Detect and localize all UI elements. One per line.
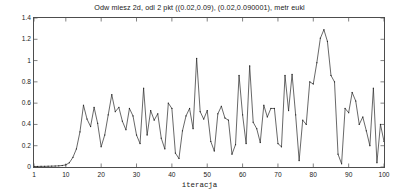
x-tick-label: 40 (157, 171, 187, 178)
y-tick-label: 1.4 (3, 14, 31, 21)
y-tick-label: 0 (3, 163, 31, 170)
y-axis-tick-labels: 00.20.40.60.811.21.4 (0, 17, 31, 168)
x-axis-label: iteracja (0, 181, 399, 189)
x-tick-label: 50 (192, 171, 222, 178)
x-tick-label: 20 (86, 171, 116, 178)
chart-title: Odw miesz 2d, odl 2 pkt ((0.02,0.09), (0… (0, 3, 399, 12)
x-tick-label: 30 (122, 171, 152, 178)
y-tick-label: 0.4 (3, 121, 31, 128)
y-tick-label: 1 (3, 57, 31, 64)
x-tick-label: 90 (334, 171, 364, 178)
x-tick-label: 60 (228, 171, 258, 178)
x-tick-label: 70 (263, 171, 293, 178)
y-tick-label: 0.2 (3, 142, 31, 149)
x-tick-label: 80 (298, 171, 328, 178)
figure-canvas: Odw miesz 2d, odl 2 pkt ((0.02,0.09), (0… (0, 0, 399, 195)
y-tick-label: 1.2 (3, 36, 31, 43)
data-series-line (34, 18, 384, 167)
plot-area (33, 17, 385, 168)
y-tick-label: 0.6 (3, 100, 31, 107)
y-tick-label: 0.8 (3, 78, 31, 85)
x-tick-label: 100 (369, 171, 399, 178)
x-tick-label: 1 (19, 171, 49, 178)
x-tick-label: 10 (51, 171, 81, 178)
